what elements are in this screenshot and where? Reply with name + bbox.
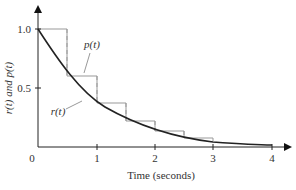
x-axis-label: Time (seconds): [127, 169, 195, 182]
y-axis-label: r(t) and p(t): [2, 61, 15, 114]
x-tick-3: 3: [210, 152, 216, 164]
x-axis-arrow-icon: [284, 143, 292, 151]
r-leader-line: [66, 101, 82, 109]
x-tick-4: 4: [269, 152, 275, 164]
y-tick-10: 1.0: [17, 23, 31, 35]
x-tick-0: 0: [29, 152, 35, 164]
y-axis-arrow-icon: [34, 5, 42, 13]
x-tick-2: 2: [152, 152, 158, 164]
p-annotation: p(t): [83, 38, 100, 51]
chart: 0 1 2 3 4 0.5 1.0 Time (seconds) r(t) an…: [0, 0, 296, 190]
axes: [38, 10, 287, 147]
r-annotation: r(t): [51, 105, 66, 118]
p-step-series: [38, 29, 213, 141]
p-leader-line: [84, 53, 90, 73]
x-tick-1: 1: [94, 152, 100, 164]
y-tick-05: 0.5: [17, 82, 31, 94]
ticks: [35, 29, 272, 150]
